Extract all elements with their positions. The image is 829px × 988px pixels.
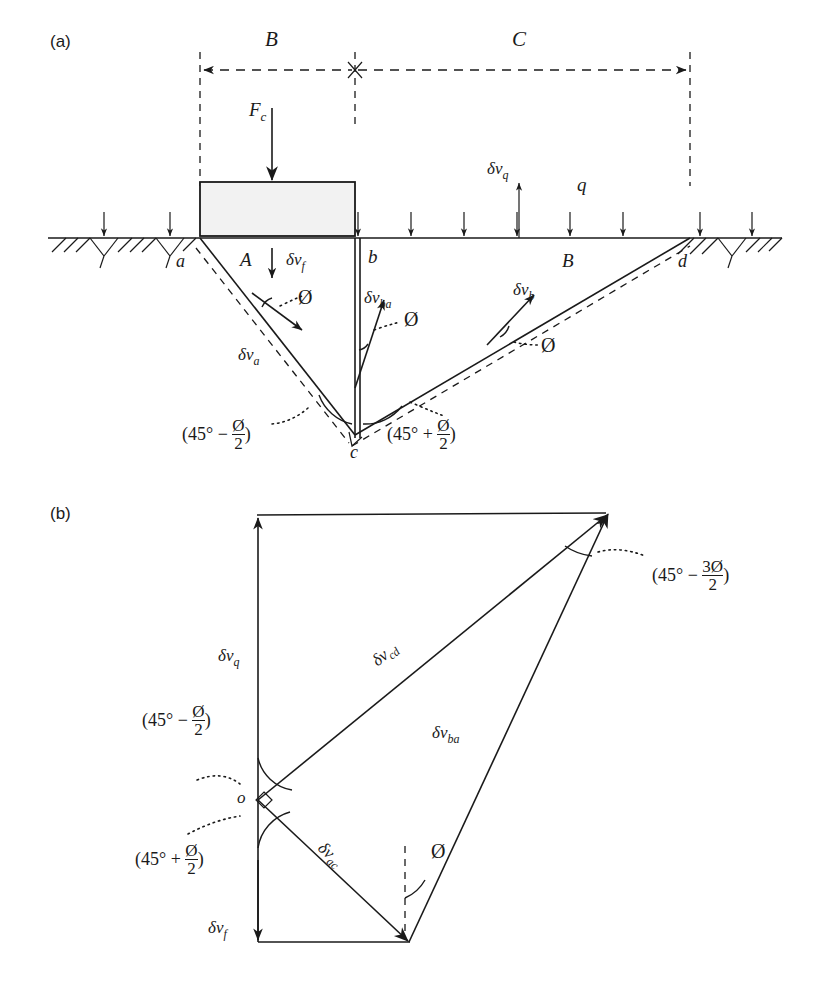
ab2-close: ) [198, 849, 204, 869]
angle-leader-top-right [598, 550, 645, 556]
wedge-angle-leader-left [272, 408, 308, 424]
angle-leader-above-o [197, 776, 240, 784]
wa1-num: Ø [437, 417, 449, 434]
surcharge-label-q: q [577, 174, 587, 196]
ab1-den: 2 [192, 720, 204, 739]
load-label-Fc-sym: F [249, 99, 261, 120]
velocity-arrow-dvcd [258, 515, 607, 800]
load-label-Fc: Fc [249, 99, 266, 121]
angle-arc-below-o [258, 812, 290, 848]
wa1-close: ) [450, 424, 456, 444]
dvba-a-sym: δν [364, 288, 379, 307]
angle-leader-below-o [188, 816, 240, 834]
phi-leader-b [514, 342, 538, 345]
point-label-b: b [368, 246, 378, 268]
zone-label-B: B [562, 250, 574, 272]
velocity-label-dva: δνa [238, 345, 259, 365]
load-label-Fc-sub: c [261, 109, 267, 124]
wedge-angle-45-minus: (45° − Ø 2 ) [182, 418, 251, 454]
dvf-b-sub: f [223, 927, 226, 941]
ab2-op: + [171, 849, 181, 869]
ab1-open: (45° [142, 710, 173, 730]
origin-label-o: o [237, 788, 246, 808]
dvf-b-sym: δν [208, 918, 223, 937]
phi-label-b-panel: Ø [431, 840, 445, 863]
velocity-label-dvba-a: δνba [364, 288, 391, 308]
dvba-b-sym: δν [432, 723, 447, 742]
wa0-num: Ø [232, 417, 244, 434]
wa1-den: 2 [437, 434, 449, 453]
dvq-b-sym: δν [218, 646, 233, 665]
wa0-open: (45° [182, 424, 213, 444]
velocity-arrow-dvb [487, 295, 534, 345]
ab2-num: Ø [185, 842, 197, 859]
ab1-op: − [178, 710, 188, 730]
figure-svg [0, 0, 829, 988]
dvq-b-sub: q [233, 655, 239, 669]
dvq-a-sym: δν [487, 159, 502, 178]
angle-arc-top-right [565, 546, 592, 556]
wa1-op: + [423, 424, 433, 444]
panel-a-graphics [48, 52, 782, 446]
dvf-a-sub: f [301, 259, 304, 273]
ab2-den: 2 [185, 859, 197, 878]
panel-label-a: (a) [50, 32, 71, 52]
footing-block [200, 182, 355, 236]
point-label-a: a [176, 251, 185, 272]
hodograph-top-edge [257, 513, 606, 515]
phi-label-b: Ø [541, 334, 555, 357]
wa0-den: 2 [232, 434, 244, 453]
panel-label-b: (b) [50, 504, 71, 524]
velocity-label-dvf-a: δνf [286, 250, 305, 270]
dva-sym: δν [238, 345, 253, 364]
angle-45-minus-3phi-2: (45° − 3Ø 2 ) [652, 559, 729, 595]
angle-45-minus-phi-2-b: (45° − Ø 2 ) [142, 704, 211, 740]
dvf-a-sym: δν [286, 250, 301, 269]
slip-line-cd [355, 238, 690, 435]
wa1-open: (45° [387, 424, 418, 444]
dim-label-B: B [265, 27, 278, 52]
ab1-num: Ø [192, 703, 204, 720]
ab0-close: ) [723, 565, 729, 585]
slip-line-ac [200, 238, 355, 435]
ab0-op: − [688, 565, 698, 585]
ab0-open: (45° [652, 565, 683, 585]
phi-leader-ba [374, 322, 400, 330]
surface-load-arrows-left [104, 212, 170, 236]
phi-arc-b-panel [405, 880, 425, 898]
velocity-label-dvq-b: δνq [218, 646, 239, 666]
dva-sub: a [253, 354, 259, 368]
ab1-close: ) [205, 710, 211, 730]
velocity-label-dvq-a: δνq [487, 159, 508, 179]
dvb-sub: b [528, 289, 534, 303]
velocity-label-dvb: δνb [513, 280, 534, 300]
velocity-label-dvf-b: δνf [208, 918, 227, 938]
ab0-num: 3Ø [702, 558, 723, 575]
dvb-sym: δν [513, 280, 528, 299]
wedge-angle-45-plus: (45° + Ø 2 ) [387, 418, 456, 454]
phi-arc-b [500, 326, 509, 337]
wedge-angle-leader-right [410, 402, 444, 416]
ground-hatch-right [678, 238, 782, 268]
dim-label-C: C [512, 27, 526, 52]
dvq-a-sub: q [502, 168, 508, 182]
ab0-den: 2 [702, 575, 723, 594]
surcharge-arrows [358, 212, 752, 236]
zone-label-A: A [240, 249, 252, 271]
wa0-close: ) [245, 424, 251, 444]
figure-root: (a) B C Fc δνq q a b c d A B δνf δνa δνb… [0, 0, 829, 988]
panel-b-graphics [188, 513, 645, 942]
ground-hatch-left [52, 238, 196, 268]
angle-45-plus-phi-2-b: (45° + Ø 2 ) [135, 843, 204, 879]
dvba-a-sub: ba [379, 297, 391, 311]
velocity-arrow-dva [252, 293, 302, 330]
point-label-d: d [678, 251, 687, 272]
wa0-op: − [218, 424, 228, 444]
ab2-open: (45° [135, 849, 166, 869]
velocity-label-dvba-b: δνba [432, 723, 459, 743]
phi-label-a: Ø [298, 286, 312, 309]
phi-label-ba: Ø [404, 308, 418, 331]
point-label-c: c [350, 442, 358, 463]
dvba-b-sub: ba [447, 732, 459, 746]
displaced-slip-cd [352, 246, 690, 446]
